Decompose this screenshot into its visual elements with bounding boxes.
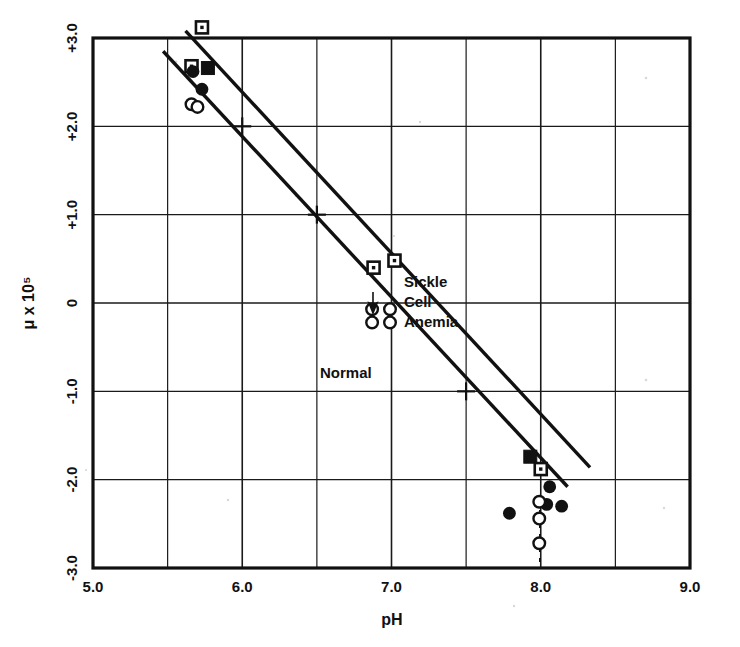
data-point-circle-filled [503, 507, 516, 520]
y-tick-label: -1.0 [63, 378, 80, 404]
data-point-circle-filled [187, 65, 200, 78]
sickle-label-line-2: Cell [404, 293, 432, 310]
y-tick-label: -3.0 [63, 555, 80, 581]
data-point-circle-open [533, 496, 545, 508]
y-tick-label: 0 [63, 299, 80, 307]
x-tick-label: 5.0 [83, 578, 104, 595]
data-point-circle-filled [543, 480, 556, 493]
data-point-square-open [196, 21, 208, 33]
data-point-circle-open [384, 303, 396, 315]
scatter-plot-canvas: 5.06.07.08.09.0 +3.0+2.0+1.00-1.0-2.0-3.… [0, 0, 740, 647]
y-tick-label: -2.0 [63, 467, 80, 493]
chart-figure: 5.06.07.08.09.0 +3.0+2.0+1.00-1.0-2.0-3.… [0, 0, 740, 647]
y-tick-label: +2.0 [63, 112, 80, 142]
data-point-circle-filled [196, 83, 209, 96]
data-point-circle-open [533, 513, 545, 525]
x-tick-label: 9.0 [680, 578, 701, 595]
data-point-square-filled [201, 62, 214, 75]
sickle-label-line-1: Sickle [404, 273, 447, 290]
data-point-square-filled [524, 450, 537, 463]
y-tick-label: +1.0 [63, 200, 80, 230]
sickle-label-line-3: Anemia [404, 313, 459, 330]
data-point-circle-open [366, 317, 378, 329]
data-point-circle-open [192, 101, 204, 113]
y-tick-label: +3.0 [63, 23, 80, 53]
normal-label: Normal [320, 364, 372, 381]
x-tick-label: 8.0 [530, 578, 551, 595]
data-point-square-open [388, 255, 400, 267]
x-axis-title: pH [381, 611, 402, 628]
x-tick-label: 6.0 [232, 578, 253, 595]
data-point-circle-open [384, 317, 396, 329]
y-axis-title: μ x 10⁵ [20, 277, 37, 330]
data-point-square-open [368, 262, 380, 274]
data-point-circle-filled [555, 500, 568, 513]
data-point-circle-open [533, 537, 545, 549]
x-tick-label: 7.0 [381, 578, 402, 595]
data-point-square-open [535, 463, 547, 475]
